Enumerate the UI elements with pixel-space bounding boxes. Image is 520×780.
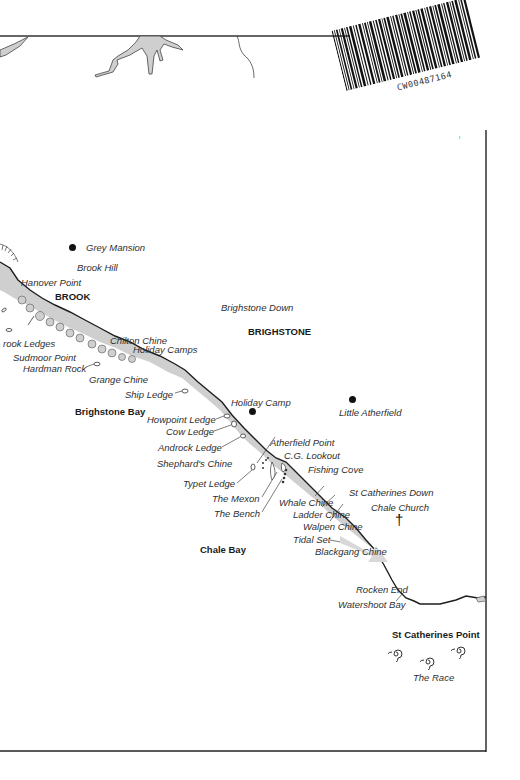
label-hardman-rock: Hardman Rock bbox=[23, 364, 86, 374]
label-brook-ledges: rook Ledges bbox=[3, 339, 55, 349]
label-st-catherines-down: St Catherines Down bbox=[349, 488, 433, 498]
point-label-st-catherines-point: St Catherines Point bbox=[392, 630, 480, 640]
race-swirl-icon bbox=[420, 654, 436, 670]
race-swirl-icon bbox=[451, 643, 467, 659]
label-walpen-chine: Walpen Chine bbox=[303, 522, 363, 532]
label-tidal-set: Tidal Set bbox=[293, 535, 330, 545]
label-grange-chine: Grange Chine bbox=[89, 375, 148, 385]
label-fishing-cove: Fishing Cove bbox=[308, 465, 363, 475]
race-swirl-icon bbox=[388, 646, 404, 662]
label-atherfield-point: Atherfield Point bbox=[270, 438, 334, 448]
label-whale-chine: Whale Chine bbox=[279, 498, 333, 508]
rocken-end-cove bbox=[476, 596, 486, 602]
label-hanover-point: Hanover Point bbox=[21, 278, 81, 288]
town-label-brook: BROOK bbox=[55, 292, 90, 302]
map-canvas bbox=[0, 0, 520, 780]
church-cross-icon: † bbox=[395, 512, 403, 527]
label-ship-ledge: Ship Ledge bbox=[125, 390, 173, 400]
label-typet-ledge: Typet Ledge bbox=[183, 479, 235, 489]
label-little-atherfield: Little Atherfield bbox=[339, 408, 402, 418]
estuary-shape bbox=[95, 36, 183, 77]
label-the-mexon: The Mexon bbox=[212, 494, 260, 504]
label-grey-mansion: Grey Mansion bbox=[86, 243, 145, 253]
label-the-race: The Race bbox=[413, 673, 454, 683]
estuary-fragment-left bbox=[0, 37, 28, 57]
edge-mark: ı bbox=[459, 134, 460, 140]
label-cow-ledge: Cow Ledge bbox=[166, 427, 214, 437]
label-chale-church: Chale Church bbox=[371, 503, 429, 513]
label-brighstone-down: Brighstone Down bbox=[221, 303, 293, 313]
town-label-brighstone: BRIGHSTONE bbox=[248, 327, 311, 337]
label-sudmoor-point: Sudmoor Point bbox=[13, 353, 76, 363]
settlement-dot-grey-mansion bbox=[69, 244, 76, 251]
label-howpoint-ledge: Howpoint Ledge bbox=[147, 415, 216, 425]
bay-label-chale-bay: Chale Bay bbox=[200, 545, 246, 555]
hachure-hanover bbox=[0, 244, 18, 262]
label-cg-lookout: C.G. Lookout bbox=[284, 451, 340, 461]
label-watershoot-bay: Watershoot Bay bbox=[338, 600, 405, 610]
stream-line bbox=[237, 36, 254, 78]
label-brook-hill: Brook Hill bbox=[77, 263, 118, 273]
label-ladder-chine: Ladder Chine bbox=[293, 510, 350, 520]
bay-label-brighstone-bay: Brighstone Bay bbox=[75, 407, 145, 417]
label-rocken-end: Rocken End bbox=[356, 585, 408, 595]
settlement-dot-holiday-camp bbox=[249, 408, 256, 415]
settlement-dot-little-atherfield bbox=[349, 396, 356, 403]
label-holiday-camps: Holiday Camps bbox=[133, 345, 197, 355]
label-shephards-chine: Shephard's Chine bbox=[157, 459, 232, 469]
label-holiday-camp: Holiday Camp bbox=[231, 398, 291, 408]
label-blackgang-chine: Blackgang Chine bbox=[315, 547, 387, 557]
label-androck-ledge: Androck Ledge bbox=[158, 443, 222, 453]
label-the-bench: The Bench bbox=[214, 509, 260, 519]
